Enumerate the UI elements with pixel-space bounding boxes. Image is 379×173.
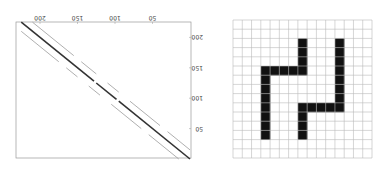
filled-cell (261, 66, 271, 76)
filled-cell (298, 38, 308, 48)
filled-cell (335, 38, 345, 48)
filled-cell (316, 103, 326, 113)
filled-cell (335, 66, 345, 76)
filled-cell (261, 112, 271, 122)
filled-cell (261, 130, 271, 140)
y-tick-label: 100 (191, 95, 203, 102)
filled-cell (335, 94, 345, 104)
x-tick-label: 200 (34, 15, 46, 22)
filled-cell (298, 121, 308, 131)
filled-cell (270, 66, 280, 76)
filled-cell (279, 66, 289, 76)
figure: 5010015020050100150200 (0, 0, 379, 173)
y-tick-label: 50 (195, 126, 203, 133)
filled-cell (326, 103, 336, 113)
filled-cell (335, 84, 345, 94)
filled-cell (335, 48, 345, 58)
filled-cell (289, 66, 299, 76)
filled-cell (298, 66, 308, 76)
filled-cell (298, 57, 308, 67)
filled-cell (261, 94, 271, 104)
x-tick-label: 150 (72, 15, 84, 22)
grid-domain (233, 20, 372, 158)
x-tick-label: 50 (149, 15, 157, 22)
filled-cell (261, 84, 271, 94)
filled-cell (298, 48, 308, 58)
y-tick-label: 200 (191, 34, 203, 41)
filled-cell (335, 75, 345, 85)
filled-cell (335, 57, 345, 67)
filled-cell (298, 112, 308, 122)
filled-cell (298, 130, 308, 140)
filled-cell (307, 103, 317, 113)
x-tick-label: 100 (109, 15, 121, 22)
filled-cell (261, 103, 271, 113)
filled-cell (261, 121, 271, 131)
filled-cell (298, 103, 308, 113)
spy-plot: 5010015020050100150200 (16, 15, 203, 159)
y-tick-label: 150 (191, 65, 203, 72)
filled-cell (335, 103, 345, 113)
filled-cell (261, 75, 271, 85)
